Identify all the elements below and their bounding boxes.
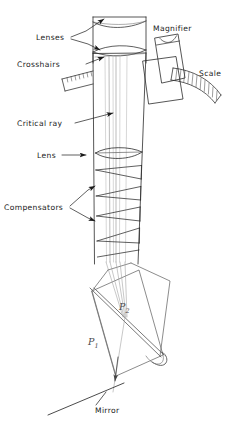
lens-element-upper [93, 21, 146, 28]
label-compensators: Compensators [4, 203, 63, 212]
label-prism-p2-sub: 2 [125, 307, 130, 315]
diagram-canvas: Lenses Crosshairs Critical ray Lens Comp… [0, 0, 226, 425]
leader-comp-upper [70, 186, 95, 206]
label-prism-p1-sub: 1 [95, 342, 99, 350]
label-lenses: Lenses [36, 33, 64, 42]
label-magnifier: Magnifier [153, 24, 192, 33]
compensator-stack [96, 166, 142, 258]
crosshairs-plane [93, 53, 146, 57]
leader-critical-ray [75, 113, 113, 123]
lens-element-lower [93, 46, 146, 56]
label-critical-ray: Critical ray [17, 119, 63, 128]
leader-lenses-upper [71, 19, 104, 37]
leader-crosshairs [86, 57, 104, 64]
leader-comp-lower [70, 208, 95, 221]
leader-lenses-lower [71, 39, 100, 50]
label-scale: Scale [199, 69, 221, 78]
prism-assembly [90, 263, 170, 376]
optical-instrument-diagram: Lenses Crosshairs Critical ray Lens Comp… [0, 0, 226, 425]
label-crosshairs: Crosshairs [17, 60, 60, 69]
label-lens: Lens [37, 151, 56, 160]
magnifier-housing [143, 57, 183, 105]
scale-band [62, 68, 221, 103]
objective-lens [95, 148, 142, 159]
label-mirror: Mirror [95, 406, 120, 415]
